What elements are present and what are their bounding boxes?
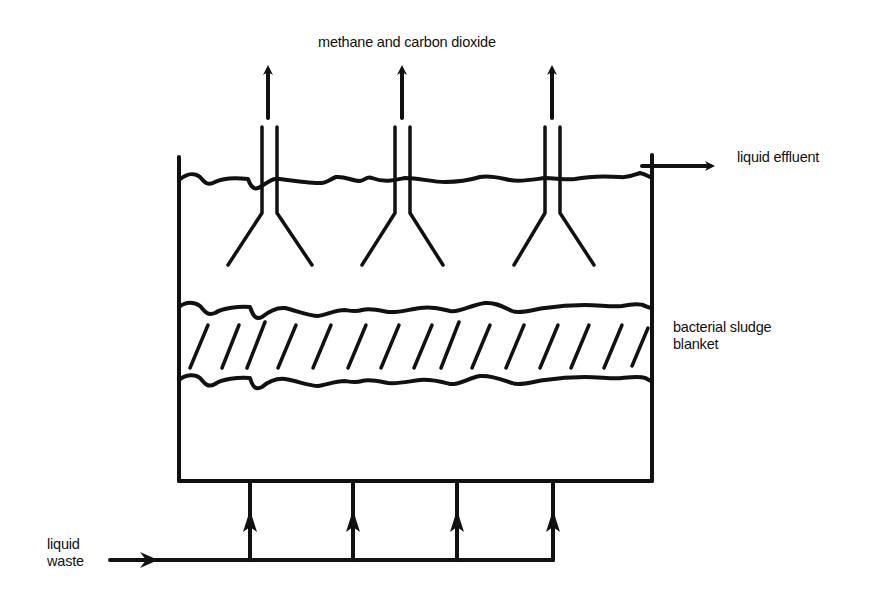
sludge-blanket-label-line2: blanket — [673, 336, 771, 353]
liquid-waste-label-line1: liquid — [47, 536, 84, 553]
sludge-blanket-bottom — [179, 375, 652, 388]
inlet-riser-3 — [450, 481, 464, 560]
inlet-riser-4 — [546, 481, 560, 560]
gas-collector-1 — [228, 70, 312, 265]
inlet-riser-2 — [346, 481, 360, 560]
inlet-distribution — [110, 481, 560, 568]
sludge-blanket-label: bacterial sludge blanket — [673, 319, 771, 353]
liquid-surface — [179, 173, 652, 188]
inlet-riser-1 — [243, 481, 257, 560]
sludge-blanket — [179, 303, 652, 389]
gas-output-label: methane and carbon dioxide — [318, 34, 496, 51]
reactor-tank — [179, 155, 652, 481]
gas-collector-2 — [362, 70, 443, 265]
uasb-reactor-diagram — [0, 0, 878, 599]
sludge-hatching — [190, 322, 648, 368]
gas-collector-3 — [514, 70, 594, 265]
liquid-waste-label-line2: waste — [47, 553, 84, 570]
liquid-waste-label: liquid waste — [47, 536, 84, 570]
sludge-blanket-label-line1: bacterial sludge — [673, 319, 771, 336]
sludge-blanket-top — [179, 303, 652, 318]
liquid-effluent-label: liquid effluent — [737, 149, 819, 166]
